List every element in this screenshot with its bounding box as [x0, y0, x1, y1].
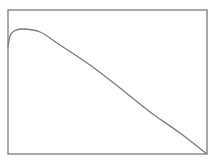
line-chart [0, 0, 217, 166]
